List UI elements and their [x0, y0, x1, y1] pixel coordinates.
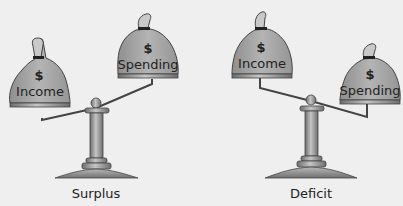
deficit-panel: $ Income $ Spending Deficit: [201, 0, 402, 206]
surplus-panel: $ Income $ Spending Surplus: [0, 0, 201, 206]
income-dollar-symbol: $: [29, 68, 49, 83]
income-bag-label: Income: [5, 85, 75, 99]
income-dollar-symbol: $: [251, 40, 271, 55]
spending-dollar-symbol: $: [360, 67, 380, 82]
spending-dollar-symbol: $: [138, 41, 158, 56]
surplus-scale-illustration: [0, 0, 201, 206]
deficit-caption: Deficit: [261, 186, 361, 201]
spending-bag-label: Spending: [113, 58, 183, 72]
surplus-caption: Surplus: [46, 186, 146, 201]
spending-bag-label: Spending: [335, 84, 403, 98]
income-bag-label: Income: [227, 57, 297, 71]
deficit-scale-illustration: [201, 0, 402, 206]
